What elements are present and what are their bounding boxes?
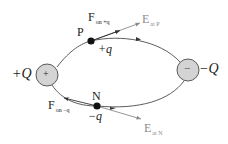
field-at-n-label: Eat N xyxy=(144,122,163,136)
plus-sign-icon: + xyxy=(43,69,49,79)
force-symbol: F xyxy=(48,98,55,112)
dipole-diagram: + − +Q −Q P +q Fon +q Eat P N −q Fon −q … xyxy=(0,0,228,144)
force-subscript: on −q xyxy=(56,107,70,113)
point-n-label: N xyxy=(92,90,101,102)
force-subscript: on +q xyxy=(96,19,110,25)
positive-charge-label: +Q xyxy=(12,67,32,81)
test-charge-minus-q-label: −q xyxy=(88,110,102,122)
field-at-p-label: Eat P xyxy=(142,13,160,27)
force-on-plus-q-label: Fon +q xyxy=(88,11,110,25)
field-subscript: at P xyxy=(150,21,159,27)
diagram-canvas xyxy=(0,0,228,144)
field-line-lower-arrow-icon xyxy=(110,107,116,110)
negative-charge-label: −Q xyxy=(199,62,219,76)
field-line-upper xyxy=(57,38,180,67)
force-symbol: F xyxy=(88,10,95,24)
test-charge-dot-p xyxy=(87,37,94,44)
point-p-label: P xyxy=(77,26,84,38)
field-vector-at-n xyxy=(97,106,141,119)
test-charge-plus-q-label: +q xyxy=(98,43,112,55)
field-symbol: E xyxy=(144,121,151,135)
field-symbol: E xyxy=(142,12,149,26)
force-vector-on-plus-q xyxy=(91,31,120,42)
minus-sign-icon: − xyxy=(184,63,190,74)
field-line-lower xyxy=(52,81,184,107)
force-on-minus-q-label: Fon −q xyxy=(48,99,70,113)
field-subscript: at N xyxy=(152,130,162,136)
